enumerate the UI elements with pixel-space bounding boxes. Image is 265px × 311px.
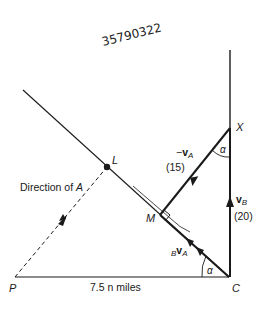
relative-velocity-diagram: 35790322 X L M P C α α Direction of A 7.… (0, 0, 265, 311)
angle-arc-c (202, 256, 206, 277)
label-point-l: L (112, 154, 118, 166)
label-alpha-c: α (207, 265, 213, 276)
label-vb-value: (20) (234, 210, 253, 222)
label-point-c: C (232, 282, 240, 294)
label-point-x: X (235, 121, 244, 133)
label-vb: vB (236, 193, 248, 207)
label-bva: BvA (171, 244, 188, 258)
label-neg-va-value: (15) (166, 161, 185, 173)
arrowhead-vb-icon (226, 196, 234, 207)
point-l-dot (104, 164, 110, 170)
label-distance-p-c: 7.5 n miles (90, 281, 141, 293)
label-alpha-x: α (220, 144, 226, 155)
label-point-m: M (146, 212, 156, 224)
handwritten-note: 35790322 (100, 21, 163, 49)
tangent-curve-m (133, 186, 190, 232)
label-direction-of-a: Direction of A (20, 181, 83, 193)
label-point-p: P (9, 282, 17, 294)
vector-bva (160, 215, 229, 277)
label-neg-va: −vA (176, 146, 193, 160)
